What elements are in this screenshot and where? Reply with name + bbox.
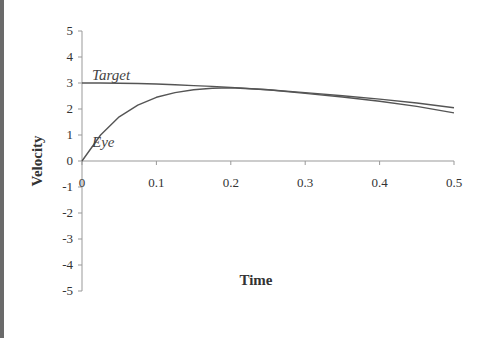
- series-lines: [82, 83, 454, 161]
- y-tick-label: -3: [62, 231, 73, 246]
- x-tick-label: 0.4: [371, 175, 388, 190]
- y-tick-label: 0: [67, 153, 74, 168]
- y-tick-label: 1: [67, 127, 74, 142]
- y-tick-label: -5: [62, 283, 73, 298]
- y-tick-label: -4: [62, 257, 73, 272]
- y-tick-label: 4: [67, 49, 74, 64]
- x-tick-label: 0.5: [446, 175, 462, 190]
- x-tick-label: 0: [79, 175, 86, 190]
- x-axis-title: Time: [239, 272, 272, 288]
- x-tick-label: 0.1: [148, 175, 164, 190]
- velocity-chart: 543210-1-2-3-4-500.10.20.30.40.5 Target …: [0, 0, 495, 338]
- y-tick-label: -2: [62, 205, 73, 220]
- y-tick-label: 2: [67, 101, 74, 116]
- x-tick-label: 0.2: [223, 175, 239, 190]
- y-tick-label: 5: [67, 23, 74, 38]
- axes: 543210-1-2-3-4-500.10.20.30.40.5: [62, 23, 462, 298]
- y-tick-label: 3: [67, 75, 74, 90]
- y-axis-title: Velocity: [29, 135, 45, 187]
- series-eye-line: [82, 88, 454, 161]
- eye-label: Eye: [91, 134, 115, 150]
- y-tick-label: -1: [62, 179, 73, 194]
- target-label: Target: [92, 67, 131, 83]
- x-tick-label: 0.3: [297, 175, 313, 190]
